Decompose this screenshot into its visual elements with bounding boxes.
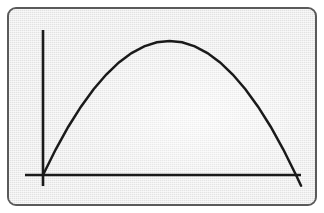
screenshot-root: Parabolic arc with x and y axes	[0, 0, 324, 213]
parabola-curve	[43, 41, 301, 186]
parabola-plot	[7, 7, 317, 206]
figure-frame	[7, 7, 317, 206]
